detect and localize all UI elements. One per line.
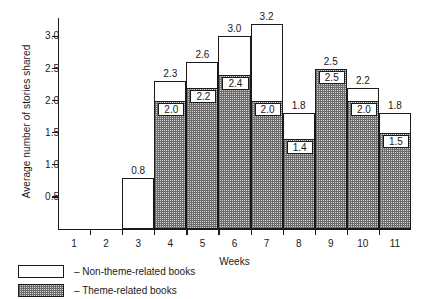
x-axis-tick xyxy=(90,229,91,235)
x-axis-tick-label: 10 xyxy=(345,238,381,249)
x-axis-tick xyxy=(218,229,219,235)
x-axis-tick-label: 4 xyxy=(152,238,188,249)
bar-theme-label: 2.0 xyxy=(255,103,281,116)
legend-swatch-nontheme xyxy=(18,265,64,278)
x-axis-tick-label: 2 xyxy=(88,238,124,249)
bar-total-label: 3.0 xyxy=(214,23,254,34)
x-axis-tick-label: 6 xyxy=(217,238,253,249)
y-axis-tick-label: 2.5 xyxy=(13,64,59,74)
bar-segment-theme xyxy=(218,75,250,229)
bar-total-label: 1.8 xyxy=(375,100,415,111)
bar-segment-theme xyxy=(347,101,379,229)
x-axis-tick-label: 8 xyxy=(281,238,317,249)
x-axis-tick-label: 3 xyxy=(120,238,156,249)
bar-theme-label: 1.5 xyxy=(383,135,409,148)
y-axis-tick-label: 3.0 xyxy=(13,31,59,41)
bar-total-label: 2.3 xyxy=(150,68,190,79)
bar-segment-nontheme xyxy=(122,178,154,229)
x-axis-tick-label: 1 xyxy=(56,238,92,249)
x-axis-tick xyxy=(315,229,316,235)
bar-segment-theme xyxy=(251,101,283,229)
x-axis-tick xyxy=(283,229,284,235)
x-axis-tick-label: 7 xyxy=(249,238,285,249)
y-axis-tick-label: 1.5 xyxy=(13,128,59,138)
bar-total-label: 1.8 xyxy=(279,100,319,111)
bar-theme-label: 2.0 xyxy=(351,103,377,116)
y-axis-tick-label: 0.5 xyxy=(13,192,59,202)
x-axis-tick xyxy=(347,229,348,235)
bar-theme-label: 2.2 xyxy=(190,90,216,103)
legend-label: – Non-theme-related books xyxy=(74,266,195,277)
x-axis-tick-label: 5 xyxy=(184,238,220,249)
bar-theme-label: 2.5 xyxy=(319,71,345,84)
bar-segment-theme xyxy=(154,101,186,229)
bar-total-label: 2.6 xyxy=(182,49,222,60)
x-axis-tick-label: 11 xyxy=(377,238,413,249)
bar-total-label: 2.5 xyxy=(311,56,351,67)
bar-segment-theme xyxy=(315,69,347,230)
legend-swatch-theme xyxy=(18,284,64,297)
bar-theme-label: 2.4 xyxy=(222,77,248,90)
x-axis-tick xyxy=(251,229,252,235)
bar-theme-label: 2.0 xyxy=(158,103,184,116)
x-axis-line xyxy=(58,229,411,230)
x-axis-tick xyxy=(122,229,123,235)
bar-theme-label: 1.4 xyxy=(287,141,313,154)
bar-total-label: 2.2 xyxy=(343,75,383,86)
y-axis-tick-label: 1.0 xyxy=(13,160,59,170)
bar-total-label: 3.2 xyxy=(247,11,287,22)
legend-label: – Theme-related books xyxy=(74,285,177,296)
y-axis-tick-label: 2.0 xyxy=(13,96,59,106)
x-axis-tick xyxy=(186,229,187,235)
x-axis-tick xyxy=(379,229,380,235)
x-axis-tick-label: 9 xyxy=(313,238,349,249)
bar-chart: Average number of stories shared 0.51.01… xyxy=(0,0,423,299)
bar-total-label: 0.8 xyxy=(118,165,158,176)
x-axis-tick xyxy=(154,229,155,235)
bar-segment-theme xyxy=(186,88,218,229)
